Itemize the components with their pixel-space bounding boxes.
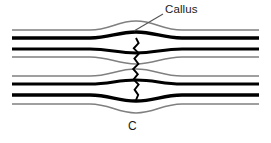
bone-line-outer-cortex-superior: [12, 32, 259, 38]
bone-line-outer-periosteum-inferior: [12, 104, 259, 113]
callus-annotation-label: Callus: [165, 3, 198, 15]
bone-line-outer-periosteum-superior: [12, 21, 259, 30]
bone-line-outer-cortex-inferior: [12, 95, 259, 101]
callus-leader-line: [134, 14, 163, 31]
callus-leader-group: [134, 14, 163, 31]
callus-figure: Callus C: [0, 0, 271, 143]
panel-label-c: C: [128, 119, 137, 133]
